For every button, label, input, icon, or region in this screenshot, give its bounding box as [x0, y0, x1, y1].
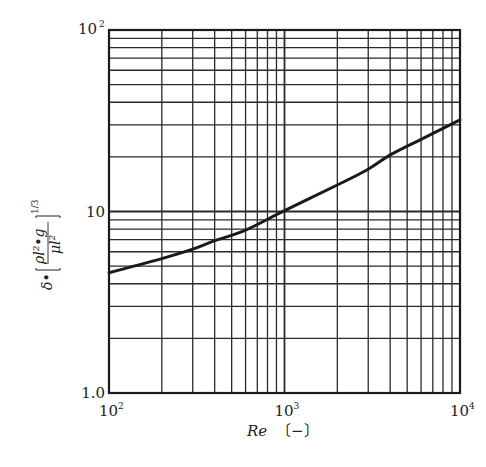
- y-label-bracket-left: [36, 268, 60, 270]
- y-axis-label: δ• ρl²•g μl² 1/3: [30, 199, 63, 290]
- y-tick-label: 1.0: [81, 384, 105, 402]
- x-axis-unit: 〔−〕: [276, 422, 319, 440]
- x-tick-label: 104: [450, 401, 475, 420]
- y-tick-exponent: 2: [99, 19, 105, 29]
- x-axis-title: Re: [246, 422, 267, 440]
- y-tick-label: 10: [86, 203, 105, 221]
- y-tick-label: 10: [78, 20, 97, 38]
- x-tick-label: 102: [99, 401, 124, 420]
- chart: 102103104 1.010102 Re 〔−〕 δ• ρl²•g μl² 1…: [0, 0, 486, 467]
- x-axis-label: Re 〔−〕: [246, 422, 319, 440]
- x-tick-label: 103: [275, 401, 300, 420]
- y-label-numerator: ρl²•g: [31, 228, 47, 265]
- y-label-prefix: δ•: [39, 273, 55, 290]
- y-tick-labels: 1.010102: [78, 19, 105, 402]
- x-tick-labels: 102103104: [99, 401, 475, 420]
- y-label-exponent: 1/3: [30, 199, 40, 214]
- y-label-denominator: μl²: [47, 234, 63, 254]
- y-label-bracket-right: [36, 216, 60, 218]
